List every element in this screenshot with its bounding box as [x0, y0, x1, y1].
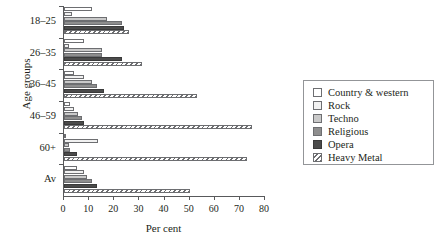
- legend-label: Opera: [328, 138, 354, 151]
- legend-label: Heavy Metal: [328, 151, 383, 164]
- y-tick-label: 60+: [40, 142, 56, 153]
- legend-swatch-icon: [313, 114, 322, 123]
- bar: [64, 84, 97, 88]
- bar: [64, 152, 77, 156]
- bar: [64, 30, 129, 34]
- legend-item[interactable]: Rock: [313, 99, 433, 112]
- bar: [64, 89, 104, 93]
- y-tick: [59, 133, 63, 134]
- bar: [64, 170, 84, 174]
- legend-item[interactable]: Techno: [313, 112, 433, 125]
- bar: [64, 48, 102, 52]
- legend-item[interactable]: Religious: [313, 125, 433, 138]
- legend-label: Techno: [328, 112, 359, 125]
- x-tick: [113, 196, 114, 200]
- y-tick-label: 36–45: [30, 78, 56, 89]
- bar: [64, 26, 124, 30]
- bar: [64, 139, 98, 143]
- bar: [64, 62, 142, 66]
- bar: [64, 71, 74, 75]
- y-tick: [59, 38, 63, 39]
- bar: [64, 134, 66, 138]
- x-tick: [264, 196, 265, 200]
- bar: [64, 80, 92, 84]
- x-tick: [214, 196, 215, 200]
- legend-label: Religious: [328, 125, 368, 138]
- y-tick: [59, 164, 63, 165]
- bar: [64, 53, 102, 57]
- legend-label: Country & western: [328, 86, 409, 99]
- y-tick: [59, 69, 63, 70]
- bar: [64, 184, 97, 188]
- bar: [64, 107, 74, 111]
- y-tick: [59, 6, 63, 7]
- bar: [64, 179, 92, 183]
- plot-area: 01020304050607080 18–2526–3536–4546–5960…: [63, 6, 264, 196]
- bar: [64, 112, 78, 116]
- x-tick: [164, 196, 165, 200]
- x-tick: [189, 196, 190, 200]
- chart-canvas: Age groups Per cent 01020304050607080 18…: [0, 0, 444, 243]
- y-tick-label: 46–59: [30, 110, 56, 121]
- legend-item[interactable]: Country & western: [313, 86, 433, 99]
- bar: [64, 143, 69, 147]
- x-tick: [239, 196, 240, 200]
- bar: [64, 189, 190, 193]
- bar: [64, 17, 107, 21]
- bar: [64, 7, 92, 11]
- y-tick-label: 26–35: [30, 47, 56, 58]
- legend-item[interactable]: Heavy Metal: [313, 151, 433, 164]
- bar: [64, 121, 84, 125]
- x-tick: [138, 196, 139, 200]
- legend-swatch-icon: [313, 140, 322, 149]
- bar: [64, 175, 87, 179]
- bar: [64, 125, 252, 129]
- x-tick: [63, 196, 64, 200]
- legend-item[interactable]: Opera: [313, 138, 433, 151]
- bar: [64, 21, 122, 25]
- bar: [64, 12, 72, 16]
- bar: [64, 75, 84, 79]
- bar: [64, 94, 197, 98]
- x-tick-label: 80: [249, 203, 279, 214]
- x-axis-title: Per cent: [63, 222, 264, 234]
- legend: Country & westernRockTechnoReligiousOper…: [303, 80, 434, 165]
- y-tick-label: Av: [44, 173, 56, 184]
- x-tick: [88, 196, 89, 200]
- bar: [64, 148, 70, 152]
- bar: [64, 57, 122, 61]
- legend-swatch-icon: [313, 153, 322, 162]
- y-tick-label: 18–25: [30, 15, 56, 26]
- bar: [64, 166, 77, 170]
- legend-swatch-icon: [313, 127, 322, 136]
- bar: [64, 102, 70, 106]
- legend-swatch-icon: [313, 88, 322, 97]
- legend-swatch-icon: [313, 101, 322, 110]
- bar: [64, 39, 84, 43]
- y-tick: [59, 101, 63, 102]
- bar: [64, 157, 247, 161]
- bar: [64, 44, 69, 48]
- bar: [64, 116, 82, 120]
- legend-label: Rock: [328, 99, 350, 112]
